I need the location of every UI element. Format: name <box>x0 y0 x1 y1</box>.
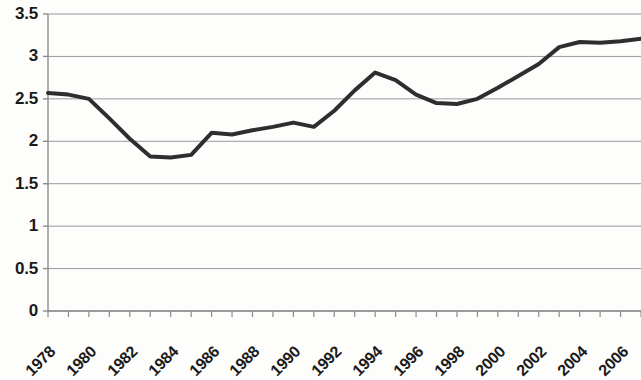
x-tick-label: 1998 <box>431 343 468 380</box>
x-tick-label: 1978 <box>22 343 59 380</box>
x-tick-label: 1996 <box>390 343 427 380</box>
x-tick-label: 1980 <box>63 343 100 380</box>
x-tick-label: 1988 <box>226 343 263 380</box>
x-tick-label: 2004 <box>554 343 591 380</box>
x-tick-label: 1984 <box>145 343 182 380</box>
x-tick-label: 1982 <box>104 343 141 380</box>
x-tick-label: 1990 <box>267 343 304 380</box>
x-tick-label: 1986 <box>186 343 223 380</box>
x-tick-label: 2002 <box>513 343 550 380</box>
x-tick-label: 2006 <box>595 343 632 380</box>
x-tick-label: 2000 <box>472 343 509 380</box>
x-tick-label: 1992 <box>308 343 345 380</box>
x-tick-label: 1994 <box>349 343 386 380</box>
